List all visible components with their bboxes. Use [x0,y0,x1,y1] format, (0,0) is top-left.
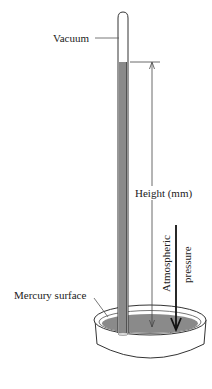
atmospheric-label: Atmospheric [160,235,172,292]
mercury-pool [102,314,198,333]
pressure-label: pressure [181,246,193,283]
height-label: Height (mm) [135,187,192,200]
mercury-surface-label: Mercury surface [14,289,86,301]
vacuum-label: Vacuum [53,32,89,44]
mercury-dish [94,305,206,358]
barometer-tube [118,12,128,336]
mercury-column [119,62,127,333]
barometer-diagram: Vacuum Height (mm) Atmospheric pressure … [0,0,212,389]
